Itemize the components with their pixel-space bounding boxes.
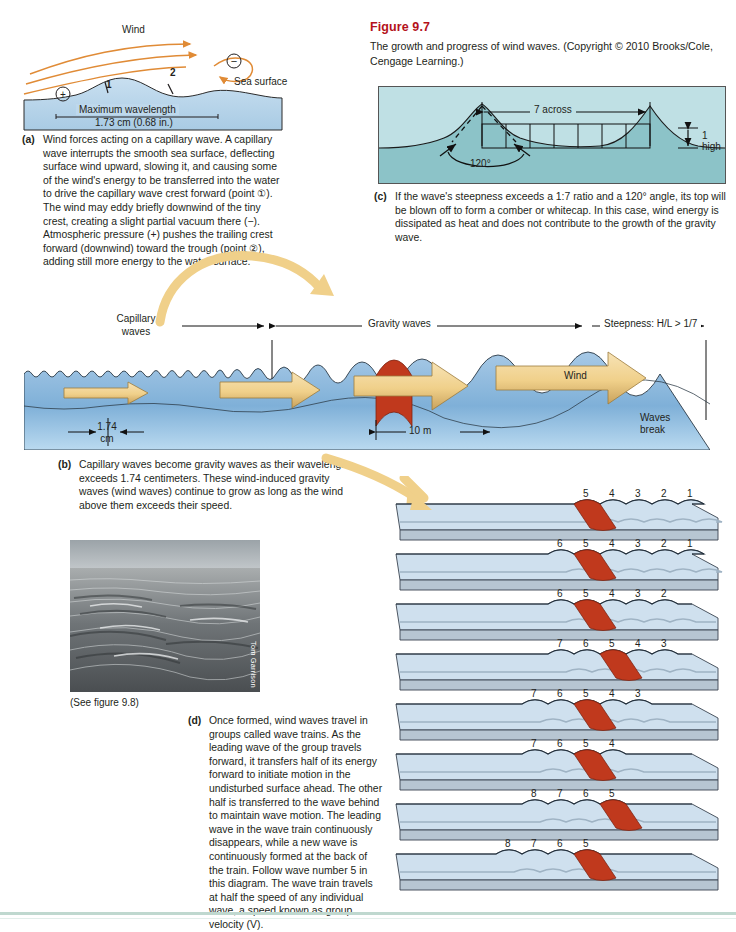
- wave-number-label: 6: [557, 838, 563, 849]
- wave-train-stack: 54321654321654327654376543765487658765: [392, 488, 728, 892]
- wave-number-label: 4: [635, 638, 641, 649]
- wave-number-label: 6: [557, 538, 563, 549]
- wave-number-label: 4: [609, 588, 615, 599]
- figure-caption: The growth and progress of wind waves. (…: [370, 39, 728, 68]
- wave-number-label: 5: [583, 688, 589, 699]
- ocean-photo-svg: [70, 540, 260, 692]
- photo-credit: Tom Garrison: [249, 641, 258, 688]
- panel-b-caption: (b) Capillary waves become gravity waves…: [58, 458, 358, 512]
- wave-number-label: 5: [583, 738, 589, 749]
- pressure-minus-icon: −: [227, 54, 241, 68]
- wave-number-label: 6: [583, 638, 589, 649]
- wave-number-label: 4: [609, 488, 615, 499]
- wave-number-label: 6: [557, 688, 563, 699]
- wave-number-label: 3: [661, 638, 667, 649]
- photo-caption: (See figure 9.8): [70, 697, 139, 708]
- panel-c-angle-label: 120°: [470, 158, 491, 169]
- svg-text:−: −: [231, 55, 237, 67]
- wave-number-label: 4: [609, 688, 615, 699]
- wave-number-label: 5: [583, 538, 589, 549]
- wave-number-label: 7: [557, 638, 563, 649]
- wave-number-label: 2: [661, 538, 667, 549]
- wave-number-label: 5: [583, 588, 589, 599]
- arrow-into-wave-train: [398, 476, 448, 516]
- panel-c-high-label: 1 high: [702, 130, 726, 152]
- wave-number-label: 4: [609, 738, 615, 749]
- panel-d-text: Once formed, wind waves travel in groups…: [209, 714, 384, 932]
- wave-number-label: 3: [635, 488, 641, 499]
- wave-number-label: 2: [661, 488, 667, 499]
- figure-number: Figure 9.7: [370, 20, 728, 34]
- svg-text:+: +: [60, 89, 66, 100]
- wave-train-block: 8765: [392, 838, 724, 896]
- wave-number-label: 1: [687, 488, 693, 499]
- ocean-photo: Tom Garrison: [70, 540, 260, 692]
- figure-heading: Figure 9.7 The growth and progress of wi…: [370, 20, 728, 68]
- wave-number-label: 6: [583, 788, 589, 799]
- panel-a-sea-surface-label: Sea surface: [234, 76, 287, 87]
- wave-number-label: 3: [635, 688, 641, 699]
- panel-b-gravity-width-label: 10 m: [409, 425, 431, 436]
- panel-b-gravity-label: Gravity waves: [362, 318, 437, 329]
- panel-c-text: If the wave's steepness exceeds a 1:7 ra…: [395, 190, 726, 244]
- wave-number-label: 2: [661, 588, 667, 599]
- wave-number-label: 5: [583, 838, 589, 849]
- panel-b-capillary-width-label: 1.74 cm: [92, 421, 122, 445]
- panel-c-across-label: 7 across: [530, 104, 576, 115]
- wave-number-label: 5: [609, 788, 615, 799]
- panel-a-label: (a): [22, 133, 37, 269]
- panel-b-steepness-label: Steepness: H/L > 1/7: [600, 318, 701, 329]
- footer-rule: [0, 912, 736, 915]
- wave-number-label: 7: [557, 788, 563, 799]
- panel-d-caption: (d) Once formed, wind waves travel in gr…: [188, 714, 384, 932]
- panel-b-break-label: Waves break: [640, 412, 670, 436]
- panel-a-wavelength-label: Maximum wavelength: [76, 104, 179, 115]
- panel-a-wavelength-value: 1.73 cm (0.68 in.): [95, 117, 173, 128]
- wave-number-label: 4: [609, 538, 615, 549]
- wave-number-label: 7: [531, 738, 537, 749]
- panel-c-caption: (c) If the wave's steepness exceeds a 1:…: [374, 190, 726, 244]
- panel-b-capillary-label: Capillary waves: [100, 312, 172, 338]
- wave-growth-svg: [24, 340, 710, 450]
- panel-a-wind-label: Wind: [122, 24, 145, 35]
- whitecap-geometry-svg: [378, 86, 726, 184]
- wave-number-label: 8: [531, 788, 537, 799]
- panel-a-diagram: + − Wind Sea surface 1 2 Maximum wavelen…: [18, 22, 288, 132]
- panel-b-text: Capillary waves become gravity waves as …: [79, 458, 358, 512]
- pressure-plus-icon: +: [56, 87, 70, 101]
- wave-number-label: 3: [635, 538, 641, 549]
- panel-b-label: (b): [58, 458, 73, 512]
- panel-b-wind-label: Wind: [564, 370, 587, 381]
- panel-d-label: (d): [188, 714, 203, 932]
- wave-number-label: 1: [687, 538, 693, 549]
- wave-number-label: 7: [531, 838, 537, 849]
- wave-number-label: 3: [635, 588, 641, 599]
- panel-b-diagram: 1.74 cm 10 m Wind Waves break: [24, 340, 710, 450]
- wave-number-label: 5: [583, 488, 589, 499]
- panel-c-diagram: 7 across 1 high 120°: [378, 86, 726, 184]
- panel-a-point-2-label: 2: [170, 67, 176, 78]
- wave-number-label: 5: [609, 638, 615, 649]
- wave-number-label: 6: [557, 738, 563, 749]
- footer-rule-thin: [0, 918, 736, 919]
- wave-number-label: 7: [531, 688, 537, 699]
- panel-c-label: (c): [374, 190, 389, 244]
- panel-a-point-1-label: 1: [106, 79, 112, 90]
- wave-number-label: 8: [505, 838, 511, 849]
- wave-number-label: 6: [557, 588, 563, 599]
